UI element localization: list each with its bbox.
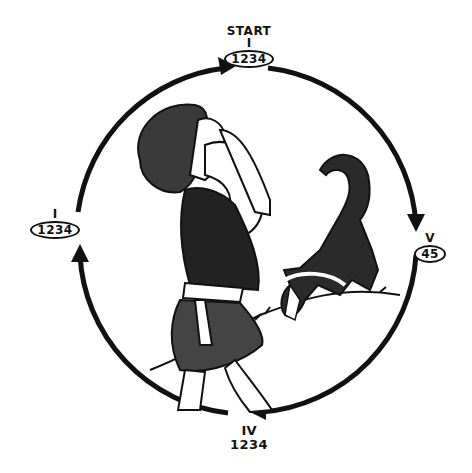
node-top-roman: I bbox=[214, 37, 284, 49]
arrowhead-right-icon bbox=[407, 214, 425, 232]
node-bottom-roman: IV bbox=[214, 424, 284, 437]
node-right-roman: V bbox=[410, 232, 450, 244]
node-left-roman: I bbox=[22, 208, 88, 220]
node-bottom-numbers: 1234 bbox=[214, 438, 284, 451]
node-bottom: IV 1234 bbox=[214, 424, 284, 451]
cycle-diagram: START I 1234 V 45 IV 1234 I 1234 bbox=[0, 0, 472, 473]
node-left: I 1234 bbox=[22, 208, 88, 239]
node-right-numbers: 45 bbox=[414, 245, 446, 263]
node-right: V 45 bbox=[410, 232, 450, 263]
node-left-numbers: 1234 bbox=[30, 221, 79, 239]
arrowhead-left-icon bbox=[71, 244, 89, 262]
node-top: START I 1234 bbox=[214, 25, 284, 68]
arc-top-to-right bbox=[268, 68, 416, 225]
node-top-numbers: 1234 bbox=[224, 50, 273, 68]
